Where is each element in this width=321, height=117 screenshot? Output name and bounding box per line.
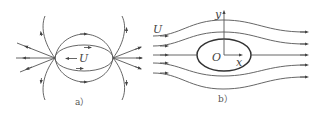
- panel-b: U y O x b）: [153, 8, 307, 104]
- origin-label: O: [212, 51, 221, 64]
- caption-b: b）: [218, 94, 233, 104]
- streamline-a-left-5: [43, 58, 55, 100]
- streamline-a-left-1: [43, 16, 55, 58]
- streamline-a-right-5: [113, 58, 125, 100]
- velocity-label-b: U: [153, 23, 163, 36]
- x-axis-label: x: [236, 56, 243, 69]
- streamline-b-1: [153, 20, 305, 36]
- diagram-canvas: U a） U y O x b）: [0, 0, 321, 117]
- velocity-label-a: U: [79, 52, 89, 65]
- y-axis-label: y: [214, 8, 222, 21]
- streamline-b-4: [153, 63, 305, 76]
- panel-a: U a）: [16, 16, 142, 107]
- streamline-a-left-2: [17, 43, 55, 58]
- caption-a: a）: [75, 97, 89, 107]
- streamline-a-right-1: [113, 16, 125, 58]
